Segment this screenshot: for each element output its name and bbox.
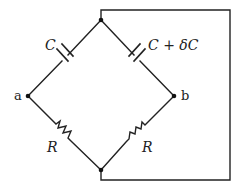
- cap-right-op: +: [159, 37, 180, 53]
- wire-cap-right-to-b: [140, 61, 174, 96]
- capacitor-right: [129, 44, 145, 61]
- resistor-right: [101, 96, 174, 170]
- node-b-label: b: [181, 88, 189, 103]
- capacitor-left: [57, 44, 73, 61]
- cap-right-main: C: [148, 37, 159, 53]
- node-bottom: [99, 168, 104, 173]
- capacitor-right-label: C + δC: [148, 37, 199, 53]
- return-wire: [101, 10, 230, 180]
- bridge-circuit: a b C C + δC R R: [0, 0, 243, 192]
- resistor-left: [28, 96, 101, 170]
- node-a-label: a: [14, 88, 22, 103]
- wire-top-to-cap-left: [68, 20, 101, 55]
- resistor-left-label: R: [46, 139, 58, 155]
- node-b: [172, 94, 177, 99]
- resistor-right-label: R: [141, 139, 153, 155]
- capacitor-left-label: C: [45, 37, 56, 53]
- node-a: [26, 94, 31, 99]
- wire-cap-left-to-a: [28, 61, 62, 96]
- cap-right-delta: δC: [179, 37, 198, 53]
- node-top: [99, 18, 104, 23]
- wire-top-to-cap-right: [101, 20, 134, 55]
